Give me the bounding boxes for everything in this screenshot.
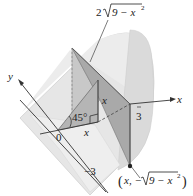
top-expression-coef: 2: [96, 6, 102, 18]
point-close-paren: ): [182, 174, 187, 190]
height-x-label: x: [101, 94, 107, 106]
x-axis-label: x: [176, 93, 182, 105]
top-expression-radicand: 9 − x: [112, 6, 135, 18]
point-x: x,: [123, 174, 132, 186]
solid-diagram: 2 9 − x 2 y x 0 3 −3 45° x x ( x, − 9 − …: [0, 0, 193, 196]
y-axis-label: y: [7, 70, 13, 82]
point-neg: −: [135, 174, 141, 186]
origin-label: 0: [56, 131, 62, 143]
point-marker: [128, 164, 132, 168]
y-tick-label: −3: [84, 165, 96, 177]
top-expression-exp: 2: [141, 4, 145, 12]
point-open-paren: (: [118, 174, 123, 190]
base-x-label: x: [83, 126, 89, 138]
diagram-canvas: 2 9 − x 2 y x 0 3 −3 45° x x ( x, − 9 − …: [0, 0, 193, 196]
y-axis-arrow: [18, 79, 24, 86]
point-radicand: 9 − x: [149, 174, 172, 186]
x-axis-arrow: [170, 97, 176, 102]
point-exp: 2: [177, 172, 181, 180]
angle-label: 45°: [72, 111, 87, 123]
x-tick-label: 3: [136, 110, 142, 122]
